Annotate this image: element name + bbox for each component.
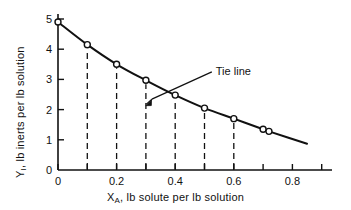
x-tick-label: 0.4 [168,175,183,187]
x-tick-label: 0.6 [226,175,241,187]
x-axis-label-text: , lb solute per lb solution [120,191,244,203]
data-point-marker [260,126,266,132]
data-point-marker [55,19,61,25]
data-point-marker [231,116,237,122]
x-tick-label: 0.2 [109,175,124,187]
data-point-marker [266,128,272,134]
chart-plot: Tie line 00.20.40.60.8012345 [0,0,351,210]
figure-container: Tie line 00.20.40.60.8012345 XA, lb solu… [0,0,351,210]
x-axis-label: XA, lb solute per lb solution [0,191,351,205]
tick-label-group: 00.20.40.60.8012345 [46,13,300,187]
y-tick-label: 5 [46,13,52,25]
data-point-marker [202,105,208,111]
dropline-group [87,49,234,169]
annotation-arrowhead [146,100,152,106]
y-tick-label: 4 [46,43,52,55]
y-tick-label: 3 [46,73,52,85]
tie-line-annotation-text: Tie line [216,65,251,77]
data-curve [58,22,307,144]
y-axis-label-text: , lb inerts per lb solution [14,46,26,168]
annotation-leader-line [152,72,212,99]
equilibrium-curve [58,22,307,144]
y-tick-label: 1 [46,134,52,146]
data-point-marker [84,42,90,48]
x-tick-label: 0.8 [285,175,300,187]
x-tick-label: 0 [55,175,61,187]
data-point-marker [114,61,120,67]
y-axis-label: YI, lb inerts per lb solution [14,46,28,178]
y-axis-label-subscript: I [19,168,28,170]
annotation-group: Tie line [146,65,251,106]
data-point-marker [172,92,178,98]
y-tick-label: 0 [46,164,52,176]
y-axis-label-symbol: Y [14,170,26,178]
axes-group [58,14,332,170]
data-point-marker [143,77,149,83]
y-tick-label: 2 [46,104,52,116]
